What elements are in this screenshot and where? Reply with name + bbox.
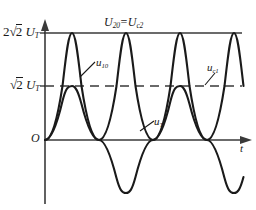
u10-subscript: 10 — [102, 62, 108, 69]
waveform-figure: 2√2 UT √2 UT U20=Uc2 u10 uc1 uT O t — [0, 0, 256, 210]
curve-label-uT: uT — [154, 116, 163, 129]
mid-level-unit: U — [26, 77, 35, 92]
top-level-subscript: T — [35, 31, 39, 40]
leader-line-uc1 — [205, 73, 215, 85]
leader-line-u10 — [80, 62, 95, 77]
y-axis-arrowhead — [41, 19, 49, 31]
uT-subscript: T — [160, 121, 164, 128]
mid-level-subscript: T — [35, 84, 39, 93]
y-axis-label-top-level: 2√2 UT — [3, 24, 39, 40]
t-axis-label: t — [240, 143, 243, 154]
top-line-rhs-subscript: c2 — [136, 21, 143, 30]
top-line-lhs: U — [104, 15, 113, 29]
sqrt-symbol-mid: √2 — [10, 77, 23, 91]
top-line-equals: =U — [120, 15, 137, 29]
top-level-unit: U — [25, 24, 34, 39]
dashed-line-label-uc1: uc1 — [207, 62, 219, 75]
curve-label-u10: u10 — [96, 57, 108, 70]
origin-label: O — [31, 132, 40, 144]
uc1-subscript: c1 — [213, 67, 219, 74]
top-line-lhs-subscript: 20 — [113, 21, 120, 30]
top-line-equation-label: U20=Uc2 — [104, 16, 143, 30]
sqrt-symbol-top: √2 — [10, 24, 23, 38]
y-axis-label-mid-level: √2 UT — [10, 77, 40, 93]
